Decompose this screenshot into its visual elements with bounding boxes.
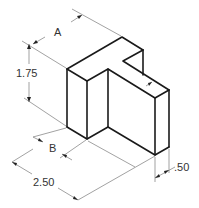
dimension-b-label: B [49,142,56,154]
dimension-a-label: A [54,26,62,38]
object-outline [67,37,169,155]
dimension-thickness: .50 [155,149,189,182]
dimension-height: 1.75 [16,44,66,126]
dimension-thickness-label: .50 [174,161,189,173]
dimension-height-label: 1.75 [16,67,37,79]
dimension-length: 2.50 [12,141,155,200]
isometric-drawing: A 1.75 B 2.50 .50 [0,0,199,208]
dimension-length-label: 2.50 [33,176,54,188]
